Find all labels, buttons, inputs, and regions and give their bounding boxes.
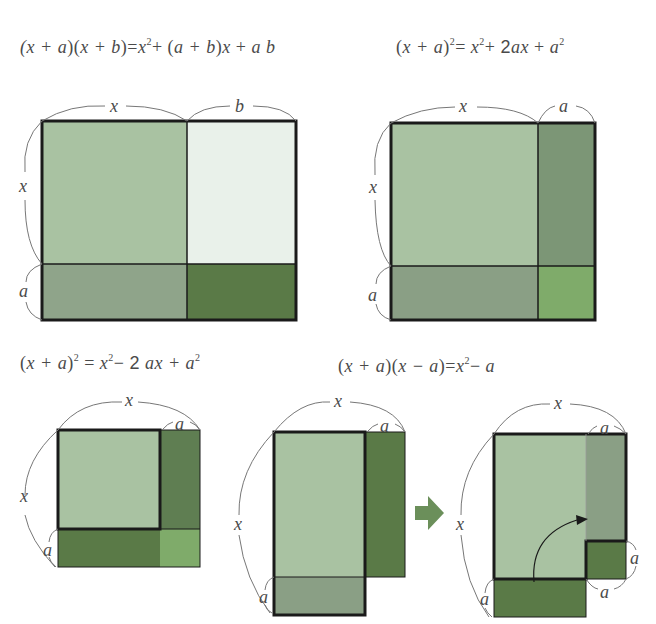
- region-ax-right: [538, 123, 595, 266]
- label-a-top: a: [600, 418, 609, 438]
- label-a-top: a: [559, 96, 568, 116]
- region-x-squared: [42, 121, 187, 264]
- label-a-side: a: [480, 589, 489, 609]
- label-a-side: a: [368, 285, 377, 305]
- region-ax: [42, 264, 187, 320]
- label-a-bottom: a: [600, 582, 609, 602]
- region-right-strip: [365, 432, 405, 577]
- transform-arrow-icon: [415, 496, 444, 530]
- label-a-top: a: [175, 414, 184, 434]
- diagrams-canvas: x b x a x a x a: [0, 0, 656, 624]
- label-x-top: x: [553, 393, 562, 413]
- label-x-side: x: [368, 177, 377, 197]
- label-a-side: a: [43, 540, 52, 560]
- region-a-squared: [160, 529, 200, 567]
- label-a-side: a: [19, 281, 28, 301]
- label-a-top: a: [380, 416, 389, 436]
- label-a-right: a: [630, 548, 639, 568]
- region-strip-right: [160, 430, 200, 529]
- region-a-squared: [586, 541, 626, 579]
- diagram-square-x-minus-a: x a x a: [19, 390, 200, 567]
- region-bottom-strip: [494, 579, 586, 617]
- region-x-minus-a-squared: [58, 430, 160, 529]
- label-x-side: x: [19, 486, 28, 506]
- region-ab: [187, 264, 296, 320]
- region-main: [274, 432, 365, 577]
- diagram-square-x-plus-a: x a x a: [368, 96, 595, 320]
- region-bottom-strip: [274, 577, 365, 615]
- diagram-difference-of-squares-before: x a x a: [233, 391, 405, 615]
- label-x-top: x: [124, 390, 133, 410]
- region-bx: [187, 121, 296, 264]
- region-ax-bottom: [391, 266, 538, 320]
- region-strip-bottom: [58, 529, 160, 567]
- label-a-side: a: [259, 587, 268, 607]
- label-x-side: x: [18, 176, 27, 196]
- label-b-top: b: [235, 96, 244, 116]
- label-x-side: x: [455, 514, 464, 534]
- label-x-top: x: [458, 96, 467, 116]
- label-x-top: x: [109, 96, 118, 116]
- region-moved-strip: [586, 434, 626, 541]
- label-x-top: x: [333, 391, 342, 411]
- diagram-difference-of-squares-after: x a x a a a: [455, 393, 639, 617]
- diagram-product-x-plus-a-x-plus-b: x b x a: [18, 96, 296, 320]
- region-a-squared: [538, 266, 595, 320]
- region-main: [494, 434, 586, 579]
- region-x-squared: [391, 123, 538, 266]
- label-x-side: x: [233, 514, 242, 534]
